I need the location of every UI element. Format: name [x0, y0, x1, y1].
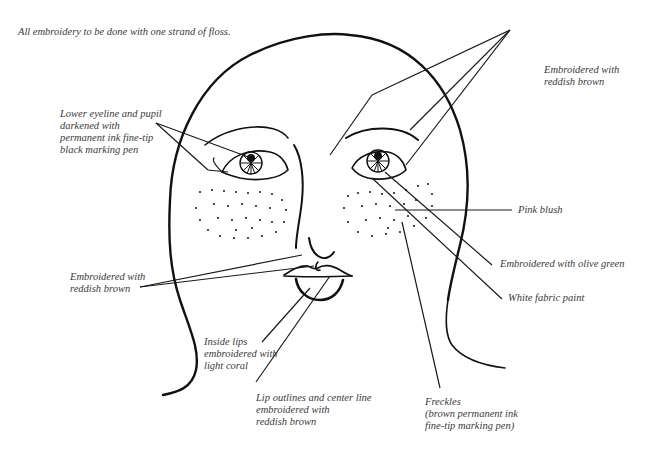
label-reddish-brown-left: Embroidered with reddish brown	[70, 271, 145, 295]
left-eye	[213, 151, 288, 180]
label-freckles: Freckles (brown permanent ink fine-tip m…	[425, 396, 518, 432]
left-cheek-curve	[294, 145, 303, 248]
label-white-paint: White fabric paint	[508, 292, 584, 304]
instruction-note: All embroidery to be done with one stran…	[18, 26, 231, 37]
nose	[309, 238, 334, 258]
label-olive-green: Embroidered with olive green	[500, 258, 625, 270]
label-pink-blush: Pink blush	[518, 204, 563, 216]
right-eyebrow	[346, 129, 418, 141]
embroidery-diagram: All embroidery to be done with one stran…	[0, 0, 658, 455]
left-eyebrow	[205, 127, 288, 145]
label-lower-eyeline: Lower eyeline and pupil darkened with pe…	[60, 108, 162, 156]
label-inside-lips: Inside lips embroidered with light coral	[204, 336, 278, 372]
right-eye	[352, 150, 406, 179]
label-reddish-brown-top: Embroidered with reddish brown	[544, 64, 619, 88]
jaw-right	[446, 300, 505, 368]
left-cheek-freckles	[195, 189, 287, 239]
label-lip-outlines: Lip outlines and center line embroidered…	[256, 392, 372, 428]
